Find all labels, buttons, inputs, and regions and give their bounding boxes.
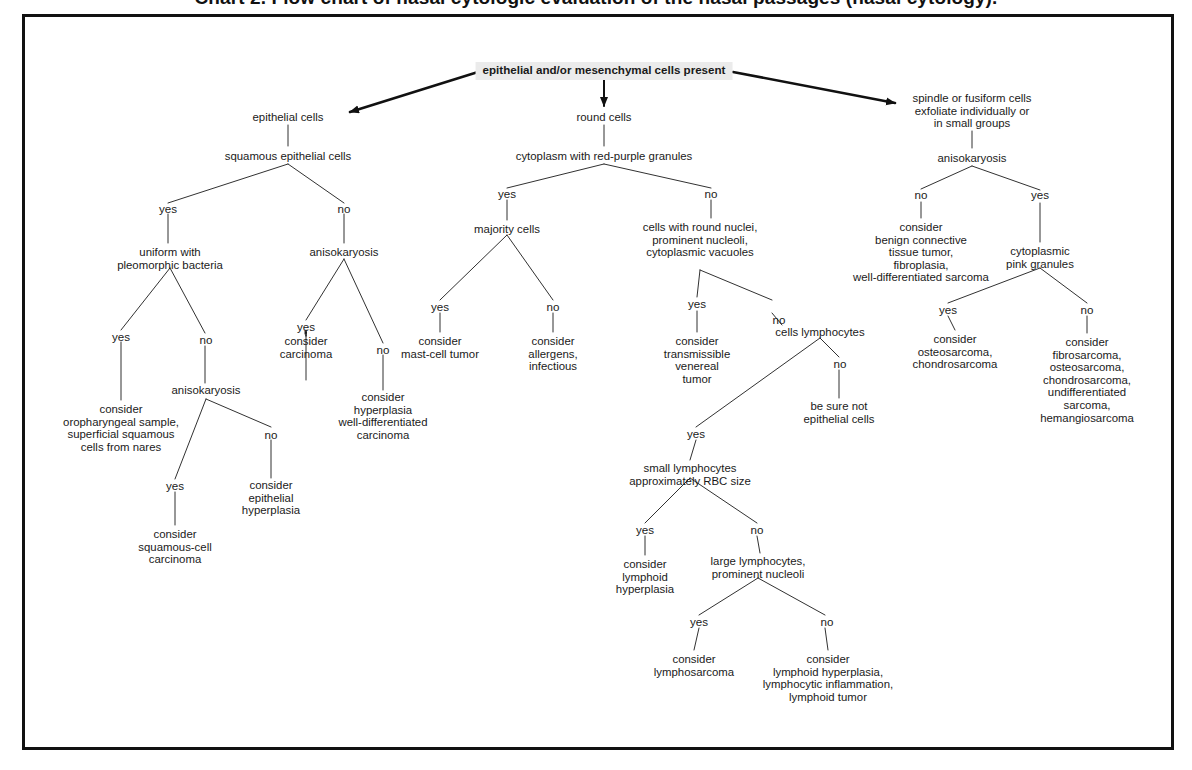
- node-consider-transmissible-venereal-tumor: consider transmissible venereal tumor: [664, 335, 730, 385]
- label-small-no: no: [751, 524, 764, 537]
- label-aniso-left-yes: yes: [297, 321, 315, 334]
- label-pink-granules-yes: yes: [939, 304, 957, 317]
- node-cells-lymphocytes: cells lymphocytes: [775, 326, 864, 339]
- label-large-no: no: [821, 616, 834, 629]
- node-anisokaryosis-left-lower: anisokaryosis: [171, 384, 240, 397]
- label-majority-no: no: [547, 301, 560, 314]
- node-small-lymphocytes: small lymphocytes approximately RBC size: [629, 462, 751, 487]
- label-aniso-left2-no: no: [265, 429, 278, 442]
- label-cytoplasm-no: no: [705, 188, 718, 201]
- node-majority-cells: majority cells: [474, 223, 540, 236]
- label-lymphocytes-no: no: [834, 358, 847, 371]
- node-anisokaryosis-right: anisokaryosis: [937, 152, 1006, 165]
- label-uniform-yes: yes: [112, 331, 130, 344]
- node-consider-carcinoma: consider carcinoma: [280, 335, 333, 360]
- node-uniform-pleomorphic-bacteria: uniform with pleomorphic bacteria: [117, 246, 223, 271]
- node-consider-osteosarcoma-chondrosarcoma: consider osteosarcoma, chondrosarcoma: [913, 333, 998, 371]
- node-consider-fibrosarcoma: consider fibrosarcoma, osteosarcoma, cho…: [1040, 336, 1134, 424]
- node-consider-benign-connective-tissue-tumor: consider benign connective tissue tumor,…: [853, 221, 989, 284]
- node-consider-hyperplasia-well-differentiated: consider hyperplasia well-differentiated…: [338, 391, 427, 441]
- node-cytoplasmic-pink-granules: cytoplasmic pink granules: [1006, 245, 1074, 270]
- node-root: epithelial and/or mesenchymal cells pres…: [476, 62, 733, 80]
- node-large-lymphocytes: large lymphocytes, prominent nucleoli: [711, 555, 806, 580]
- label-squamous-no: no: [338, 203, 351, 216]
- node-cytoplasm-red-purple-granules: cytoplasm with red-purple granules: [516, 150, 693, 163]
- label-aniso-right-yes: yes: [1031, 189, 1049, 202]
- label-round-nuclei-yes: yes: [688, 298, 706, 311]
- label-majority-yes: yes: [431, 301, 449, 314]
- label-lymphocytes-yes: yes: [687, 428, 705, 441]
- node-consider-allergens-infectious: consider allergens, infectious: [528, 335, 577, 373]
- node-consider-epithelial-hyperplasia: consider epithelial hyperplasia: [242, 479, 300, 517]
- label-aniso-left2-yes: yes: [166, 480, 184, 493]
- label-aniso-right-no: no: [915, 189, 928, 202]
- label-aniso-left-no: no: [377, 344, 390, 357]
- label-round-nuclei-no: no: [773, 314, 786, 327]
- label-squamous-yes: yes: [159, 203, 177, 216]
- label-large-yes: yes: [690, 616, 708, 629]
- node-round-cells: round cells: [576, 111, 631, 124]
- label-cytoplasm-yes: yes: [498, 188, 516, 201]
- label-small-yes: yes: [636, 524, 654, 537]
- chart-page: Chart 2. Flow chart of nasal cytologic e…: [0, 0, 1192, 770]
- node-be-sure-not-epithelial-cells: be sure not epithelial cells: [804, 400, 875, 425]
- node-consider-oropharyngeal-sample: consider oropharyngeal sample, superfici…: [63, 403, 179, 453]
- node-cells-round-nuclei: cells with round nuclei, prominent nucle…: [643, 221, 758, 259]
- node-consider-lymphoid-hyperplasia: consider lymphoid hyperplasia: [616, 558, 674, 596]
- node-epithelial-cells: epithelial cells: [253, 111, 324, 124]
- node-anisokaryosis-left: anisokaryosis: [309, 246, 378, 259]
- node-consider-lymphosarcoma: consider lymphosarcoma: [654, 653, 734, 678]
- node-consider-mast-cell-tumor: consider mast-cell tumor: [401, 335, 479, 360]
- node-squamous-epithelial-cells: squamous epithelial cells: [225, 150, 352, 163]
- node-consider-lymphoid-hyperplasia-inflammation: consider lymphoid hyperplasia, lymphocyt…: [763, 653, 893, 703]
- label-uniform-no: no: [200, 334, 213, 347]
- label-pink-granules-no: no: [1081, 304, 1094, 317]
- node-spindle-fusiform-cells: spindle or fusiform cells exfoliate indi…: [912, 92, 1031, 130]
- node-consider-squamous-cell-carcinoma: consider squamous-cell carcinoma: [138, 528, 211, 566]
